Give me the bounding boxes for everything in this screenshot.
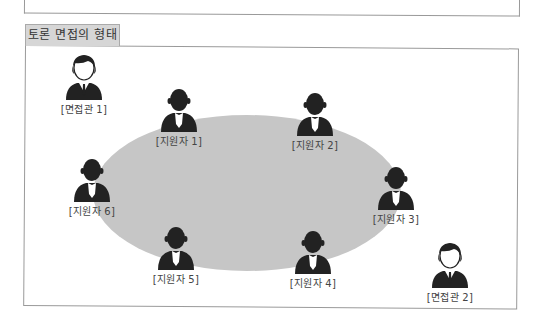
applicant-label: [지원자 4] [283, 275, 343, 290]
previous-section-box [24, 0, 520, 17]
applicant-4: [지원자 4] [283, 230, 343, 290]
applicant-icon [73, 158, 111, 202]
interviewer-label: [면접관 1] [54, 101, 114, 116]
applicant-icon [294, 230, 332, 274]
interviewer-label: [면접관 2] [420, 289, 480, 304]
applicant-6: [지원자 6] [62, 158, 122, 218]
applicant-label: [지원자 2] [285, 137, 345, 152]
discussion-table [93, 115, 401, 271]
applicant-label: [지원자 1] [149, 133, 209, 148]
interviewer-1: [면접관 1] [54, 52, 114, 116]
interviewer-2: [면접관 2] [420, 240, 480, 304]
applicant-label: [지원자 6] [62, 203, 122, 218]
section-title: 토론 면접의 형태 [25, 24, 120, 46]
applicant-5: [지원자 5] [146, 226, 206, 286]
applicant-2: [지원자 2] [285, 92, 345, 152]
applicant-icon [296, 92, 334, 136]
applicant-label: [지원자 3] [366, 211, 426, 226]
applicant-icon [377, 166, 415, 210]
applicant-icon [157, 226, 195, 270]
interviewer-icon [62, 52, 106, 100]
applicant-label: [지원자 5] [146, 271, 206, 286]
applicant-3: [지원자 3] [366, 166, 426, 226]
interviewer-icon [428, 240, 472, 288]
applicant-1: [지원자 1] [149, 88, 209, 148]
applicant-icon [160, 88, 198, 132]
